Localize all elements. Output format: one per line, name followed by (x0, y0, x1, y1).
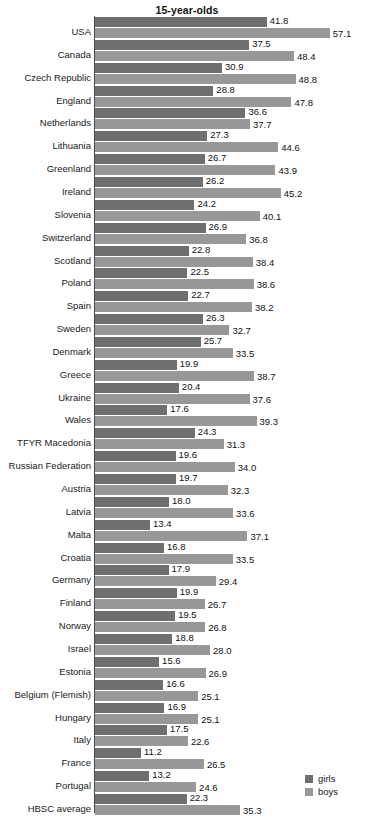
category-label: Greece (0, 369, 91, 380)
bar-value-boys: 26.7 (208, 600, 227, 610)
bar-boys (95, 736, 188, 746)
bar-girls (95, 63, 222, 73)
bar-value-boys: 25.1 (201, 715, 220, 725)
category-label: Spain (0, 300, 91, 311)
bar-girls (95, 360, 177, 370)
bar-boys (95, 462, 235, 472)
bar-value-boys: 57.1 (333, 29, 352, 39)
bar-value-boys: 45.2 (284, 189, 303, 199)
bar-girls (95, 474, 176, 484)
bar-value-boys: 26.5 (207, 760, 226, 770)
bar-value-girls: 30.9 (225, 62, 244, 72)
category-label: Greenland (0, 163, 91, 174)
bar-girls (95, 40, 249, 50)
bar-boys (95, 554, 233, 564)
bar-boys (95, 371, 254, 381)
bar-group: Austria19.732.3 (0, 474, 374, 495)
legend-swatch-icon (305, 788, 313, 796)
category-label: Germany (0, 574, 91, 585)
bar-value-boys: 37.6 (253, 395, 272, 405)
bar-group: Scotland22.838.4 (0, 246, 374, 267)
category-label: Portugal (0, 780, 91, 791)
bar-value-boys: 48.4 (297, 52, 316, 62)
bar-group: Sweden26.332.7 (0, 314, 374, 335)
bar-value-girls: 16.8 (167, 542, 186, 552)
bar-boys (95, 668, 206, 678)
bar-boys (95, 257, 253, 267)
bar-group: Netherlands36.637.7 (0, 108, 374, 129)
bar-value-boys: 29.4 (219, 577, 238, 587)
category-label: Switzerland (0, 232, 91, 243)
bar-girls (95, 703, 164, 713)
bar-value-girls: 25.7 (204, 336, 223, 346)
category-label: Israel (0, 643, 91, 654)
bar-group: Belgium (Flemish)16.625.1 (0, 680, 374, 701)
category-label: Russian Federation (0, 460, 91, 471)
bar-value-girls: 13.4 (153, 519, 172, 529)
category-label: Denmark (0, 346, 91, 357)
bar-value-girls: 24.3 (198, 427, 217, 437)
bar-boys (95, 348, 233, 358)
category-label: Canada (0, 49, 91, 60)
bar-value-girls: 19.9 (180, 587, 199, 597)
bar-girls (95, 223, 206, 233)
bar-boys (95, 211, 260, 221)
bar-boys (95, 188, 281, 198)
bar-value-girls: 26.3 (206, 313, 225, 323)
bar-value-girls: 18.0 (172, 496, 191, 506)
bar-boys (95, 51, 294, 61)
bar-value-girls: 19.6 (179, 450, 198, 460)
bar-girls (95, 634, 172, 644)
bar-girls (95, 520, 150, 530)
bar-girls (95, 771, 149, 781)
bar-value-boys: 25.1 (201, 692, 220, 702)
legend-swatch-icon (305, 775, 313, 783)
bar-value-boys: 40.1 (263, 212, 282, 222)
bar-value-girls: 26.9 (209, 222, 228, 232)
bar-girls (95, 246, 189, 256)
bar-value-girls: 18.8 (175, 633, 194, 643)
bar-group: Switzerland26.936.8 (0, 223, 374, 244)
bar-value-girls: 41.8 (270, 16, 289, 26)
category-label: England (0, 95, 91, 106)
category-label: Norway (0, 620, 91, 631)
bar-value-boys: 43.9 (278, 166, 297, 176)
bar-girls (95, 725, 167, 735)
bar-group: Finland19.926.7 (0, 588, 374, 609)
bar-group: Poland22.538.6 (0, 268, 374, 289)
category-label: France (0, 757, 91, 768)
bar-value-boys: 33.5 (236, 555, 255, 565)
bar-value-boys: 32.3 (231, 486, 250, 496)
bar-group: TFYR Macedonia24.331.3 (0, 428, 374, 449)
bar-boys (95, 416, 257, 426)
bar-boys (95, 302, 252, 312)
bar-group: Russian Federation19.634.0 (0, 451, 374, 472)
bar-group: Ireland26.245.2 (0, 177, 374, 198)
bar-girls (95, 131, 207, 141)
category-label: USA (0, 26, 91, 37)
bar-value-boys: 33.6 (236, 509, 255, 519)
category-label: Finland (0, 597, 91, 608)
bar-group: Malta13.437.1 (0, 520, 374, 541)
bar-girls (95, 657, 159, 667)
bar-value-girls: 17.5 (170, 724, 189, 734)
bar-value-boys: 35.3 (243, 806, 262, 816)
bar-group: Estonia15.626.9 (0, 657, 374, 678)
bar-value-girls: 20.4 (182, 382, 201, 392)
plot-area: USA41.857.1Canada37.548.4Czech Republic3… (0, 16, 374, 822)
bar-value-boys: 36.8 (249, 235, 268, 245)
category-label: Ukraine (0, 392, 91, 403)
bar-value-girls: 17.9 (172, 564, 191, 574)
bar-girls (95, 794, 187, 804)
bar-boys (95, 279, 254, 289)
bar-boys (95, 119, 250, 129)
bar-value-boys: 32.7 (232, 326, 251, 336)
bar-girls (95, 497, 169, 507)
bar-group: Germany17.929.4 (0, 565, 374, 586)
bar-group: Greenland26.743.9 (0, 154, 374, 175)
category-label: Estonia (0, 666, 91, 677)
category-label: Hungary (0, 712, 91, 723)
bar-group: Canada37.548.4 (0, 40, 374, 61)
bar-boys (95, 531, 247, 541)
bar-boys (95, 576, 216, 586)
